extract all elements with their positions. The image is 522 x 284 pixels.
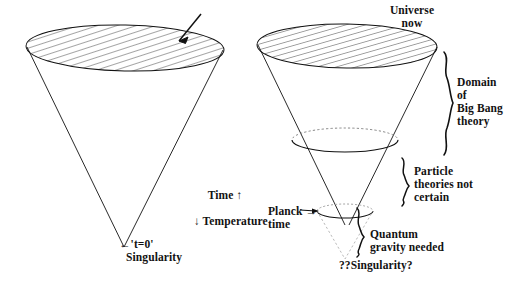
label-t-zero: ←'t=0' (119, 238, 154, 251)
label-time-arrow: Time ↑ (208, 189, 243, 201)
label-singularity: Singularity (126, 251, 182, 264)
brace-domain-big-bang (444, 52, 453, 155)
brace-particle-theories (402, 158, 409, 206)
particle-theory-boundary-ellipse (292, 128, 398, 152)
brace-quantum-gravity (357, 208, 364, 257)
label-question-singularity: ??Singularity? (339, 259, 413, 272)
label-planck-time: Planck → time (268, 205, 317, 231)
label-quantum-gravity-needed: Quantum gravity needed (370, 228, 444, 254)
label-universe-now: Universe now (369, 4, 455, 30)
cosmology-diagram: Universe now Time ↑ ↓ Temperature ←'t=0'… (0, 0, 522, 284)
label-temperature-arrow: ↓ Temperature (194, 215, 268, 228)
planck-time-boundary-ellipse (317, 204, 373, 218)
label-domain-big-bang-theory: Domain of Big Bang theory (457, 76, 503, 128)
label-time-temperature: Time ↑ ↓ Temperature (196, 176, 268, 253)
right-cone-left-side (258, 45, 345, 225)
label-particle-theories-not-certain: Particle theories not certain (414, 165, 473, 204)
